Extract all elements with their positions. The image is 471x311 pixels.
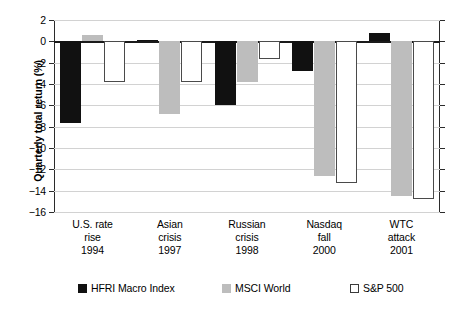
- right-axis-line: [439, 20, 440, 212]
- axis-tick-mark: [49, 84, 54, 85]
- legend-item-label: MSCI World: [235, 282, 290, 294]
- axis-tick-mark: [440, 41, 445, 42]
- bar: [181, 41, 202, 82]
- bar: [104, 41, 125, 82]
- axis-tick-mark: [49, 105, 54, 106]
- axis-tick-mark: [49, 148, 54, 149]
- category-label-line: 1994: [54, 244, 131, 257]
- gridline: [54, 20, 440, 21]
- gridline: [54, 191, 440, 192]
- y-axis-tick-label: 0: [20, 36, 46, 46]
- white-square-icon: [350, 284, 359, 293]
- axis-tick-mark: [440, 169, 445, 170]
- category-label-line: rise: [54, 231, 131, 244]
- y-axis-line: [54, 20, 55, 212]
- legend-item[interactable]: S&P 500: [350, 282, 404, 294]
- y-axis-tick-label: −14: [20, 186, 46, 196]
- axis-tick-mark: [440, 148, 445, 149]
- bar: [369, 33, 390, 42]
- category-label-line: crisis: [208, 231, 285, 244]
- bar: [215, 41, 236, 105]
- y-axis-tick-label: −8: [20, 122, 46, 132]
- bar: [391, 41, 412, 196]
- axis-tick-mark: [440, 127, 445, 128]
- gridline: [54, 105, 440, 106]
- category-label-line: 1997: [131, 244, 208, 257]
- category-label-line: 2000: [286, 244, 363, 257]
- gridline: [54, 212, 440, 213]
- plot-area: [54, 20, 440, 212]
- axis-tick-mark: [49, 212, 54, 213]
- legend-item[interactable]: HFRI Macro Index: [78, 282, 175, 294]
- axis-tick-mark: [49, 41, 54, 42]
- bar: [137, 40, 158, 42]
- category-label-line: fall: [286, 231, 363, 244]
- gridline: [54, 169, 440, 170]
- bar: [159, 41, 180, 114]
- category-label-line: 1998: [208, 244, 285, 257]
- bar: [82, 35, 103, 41]
- axis-tick-mark: [49, 169, 54, 170]
- bar: [336, 41, 357, 183]
- axis-tick-mark: [49, 127, 54, 128]
- axis-tick-mark: [440, 84, 445, 85]
- axis-tick-mark: [49, 20, 54, 21]
- gray-square-icon: [222, 284, 231, 293]
- category-label-line: U.S. rate: [54, 218, 131, 231]
- y-axis-tick-label: −6: [20, 100, 46, 110]
- axis-tick-mark: [440, 105, 445, 106]
- axis-tick-mark: [49, 191, 54, 192]
- category-label-line: attack: [363, 231, 440, 244]
- bar: [259, 41, 280, 59]
- y-axis-tick-label: −10: [20, 143, 46, 153]
- x-axis-category-label: Asiancrisis1997: [131, 218, 208, 257]
- axis-tick-mark: [440, 20, 445, 21]
- x-axis-category-label: U.S. raterise1994: [54, 218, 131, 257]
- legend-item-label: HFRI Macro Index: [91, 282, 175, 294]
- y-axis-tick-label: −2: [20, 58, 46, 68]
- category-label-line: 2001: [363, 244, 440, 257]
- axis-tick-mark: [49, 63, 54, 64]
- legend-item[interactable]: MSCI World: [222, 282, 290, 294]
- black-square-icon: [78, 284, 87, 293]
- gridline: [54, 127, 440, 128]
- category-label-line: Nasdaq: [286, 218, 363, 231]
- x-axis-category-label: Nasdaqfall2000: [286, 218, 363, 257]
- x-axis-category-label: WTCattack2001: [363, 218, 440, 257]
- gridline: [54, 148, 440, 149]
- bar: [60, 41, 81, 123]
- category-label-line: crisis: [131, 231, 208, 244]
- category-label-line: Asian: [131, 218, 208, 231]
- legend-item-label: S&P 500: [363, 282, 404, 294]
- axis-tick-mark: [440, 63, 445, 64]
- bar: [237, 41, 258, 82]
- category-label-line: WTC: [363, 218, 440, 231]
- bar: [413, 41, 434, 199]
- y-axis-tick-label: −16: [20, 207, 46, 217]
- bar: [292, 41, 313, 71]
- axis-tick-mark: [440, 191, 445, 192]
- y-axis-tick-label: 2: [20, 15, 46, 25]
- bar: [314, 41, 335, 175]
- chart-legend: HFRI Macro IndexMSCI WorldS&P 500: [0, 282, 471, 302]
- y-axis-tick-label: −12: [20, 164, 46, 174]
- category-label-line: Russian: [208, 218, 285, 231]
- bar-chart: Quarterly total return (%) 20−2−4−6−8−10…: [0, 0, 471, 311]
- gridline: [54, 84, 440, 85]
- x-axis-category-label: Russiancrisis1998: [208, 218, 285, 257]
- y-axis-tick-label: −4: [20, 79, 46, 89]
- axis-tick-mark: [440, 212, 445, 213]
